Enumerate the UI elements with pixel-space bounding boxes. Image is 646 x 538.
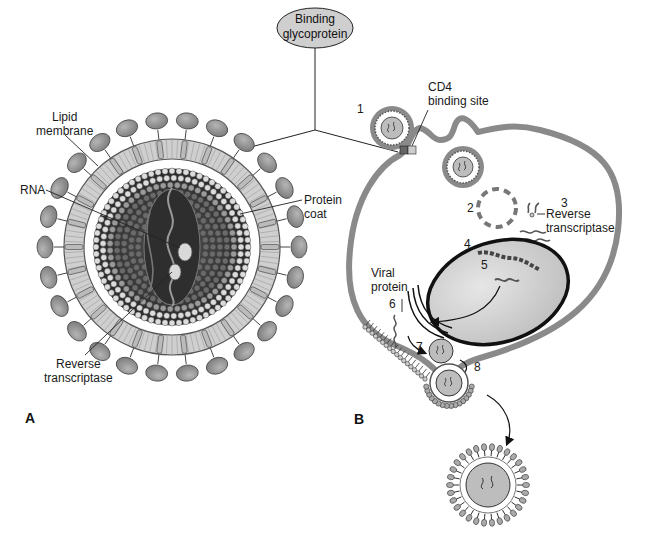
binding-glycoprotein-label: Binding glycoprotein	[270, 12, 360, 42]
lipid-membrane-label: Lipid membrane	[36, 110, 93, 138]
label-line: Viral	[371, 266, 408, 280]
label-line: Protein	[304, 193, 342, 207]
viral-protein-label: Viral protein	[371, 266, 408, 294]
step-6: 6	[389, 297, 396, 311]
assembled-capsid	[429, 339, 453, 363]
virion-entering	[442, 146, 484, 188]
label-line: protein	[371, 280, 408, 294]
diagram-canvas	[0, 0, 646, 538]
label-line: Reverse	[546, 207, 615, 221]
label-line: CD4	[428, 80, 489, 94]
label-line: transcriptase	[546, 221, 615, 235]
step-2: 2	[467, 201, 474, 215]
step-8: 8	[474, 360, 481, 374]
step-1: 1	[357, 102, 364, 116]
protein-coat-label: Protein coat	[304, 193, 342, 221]
label-line: Reverse	[44, 357, 113, 371]
budding-virion	[430, 364, 468, 402]
label-line: Binding	[270, 12, 360, 27]
label-line: coat	[304, 207, 342, 221]
released-virion	[447, 443, 530, 526]
label-line: membrane	[36, 124, 93, 138]
reverse-transcriptase-label-a: Reverse transcriptase	[44, 357, 113, 385]
label-line: glycoprotein	[270, 27, 360, 42]
label-line: binding site	[428, 94, 489, 108]
cd4-binding-site-label: CD4 binding site	[428, 80, 489, 108]
step-4: 4	[464, 237, 471, 251]
step-3: 3	[561, 196, 568, 210]
reverse-transcriptase-label-b: Reverse transcriptase	[546, 207, 615, 235]
rna-label: RNA	[20, 183, 45, 197]
panel-b-letter: B	[354, 411, 364, 427]
label-line: Lipid	[36, 110, 93, 124]
hiv-virion-cross-section	[37, 112, 307, 383]
step-5: 5	[481, 258, 488, 272]
label-line: transcriptase	[44, 371, 113, 385]
hiv-diagram: Binding glycoprotein Lipid membrane RNA …	[0, 0, 646, 538]
step-7: 7	[416, 340, 423, 354]
panel-a-letter: A	[25, 410, 35, 426]
